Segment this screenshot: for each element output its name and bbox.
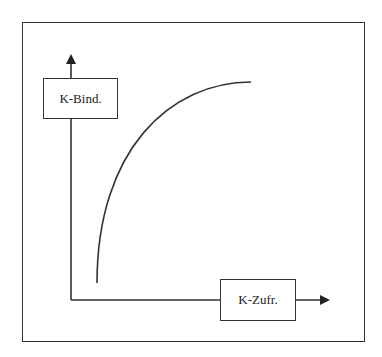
x-axis-label-box: K-Zufr.	[220, 279, 296, 321]
y-axis-label: K-Bind.	[59, 91, 101, 107]
x-axis-label: K-Zufr.	[238, 292, 277, 308]
diagram-canvas	[0, 0, 382, 357]
y-axis-label-box: K-Bind.	[43, 78, 118, 119]
saturation-curve	[97, 82, 251, 283]
